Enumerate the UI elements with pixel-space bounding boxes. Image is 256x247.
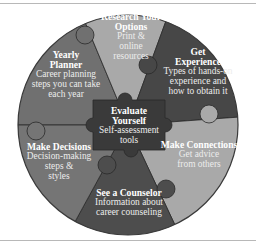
- label-experience: Get Experience Types of hands-on experie…: [157, 47, 239, 97]
- label-center: Evaluate Yourself Self-assessment tools: [96, 106, 162, 146]
- label-counselor: See a Counselor Information about career…: [87, 188, 171, 218]
- knob-counselor-2: [98, 156, 116, 174]
- knob-connections: [200, 105, 218, 123]
- label-decisions: Make Decisions Decision-making steps & s…: [22, 142, 96, 182]
- knob-decisions: [27, 122, 45, 140]
- bottom-divider: [0, 240, 256, 241]
- label-connections: Make Connections Get advice from others: [158, 140, 240, 170]
- label-planner: Yearly Planner Career planning steps you…: [28, 50, 104, 100]
